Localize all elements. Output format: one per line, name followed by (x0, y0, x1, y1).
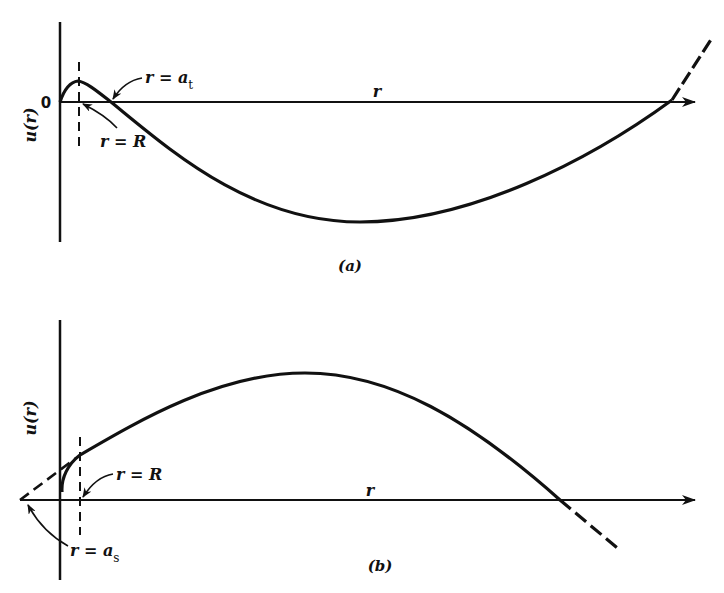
linear-extrapolation-b (20, 458, 76, 500)
arrow-at-a (113, 78, 142, 99)
panel-b: u(r) r r = R r = as (b) (20, 320, 695, 580)
caption-a: (a) (338, 257, 362, 275)
annotation-R-b: r = R (116, 465, 162, 484)
arrow-R-b (83, 474, 113, 497)
annotation-R-a: r = R (100, 132, 146, 151)
x-axis-label-b: r (366, 481, 376, 500)
caption-b: (b) (368, 557, 393, 575)
y-axis-label-b: u(r) (21, 400, 40, 435)
wavefunction-extrapolation-a (672, 38, 712, 100)
arrow-R-a (83, 104, 117, 128)
origin-label-a: 0 (41, 94, 51, 112)
arrow-as-b (28, 505, 68, 546)
annotation-as: r = as (70, 541, 120, 565)
wavefunction-extrapolation-b (560, 500, 621, 551)
x-axis-label-a: r (373, 82, 383, 101)
annotation-at: r = at (145, 68, 193, 92)
panel-a: 0 u(r) r r = at r = R (a) (21, 22, 712, 275)
y-axis-label-a: u(r) (21, 107, 40, 142)
diagram-canvas: 0 u(r) r r = at r = R (a) u(r) r r = R r… (0, 0, 724, 593)
